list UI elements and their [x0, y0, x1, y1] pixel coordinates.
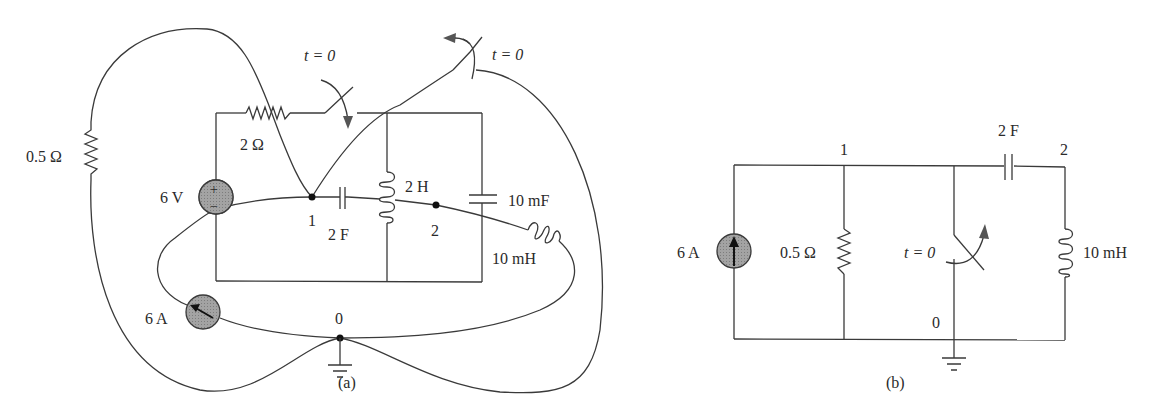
- current-source-6a-b: 6 A: [677, 234, 751, 268]
- inductor-2h: 2 H: [380, 172, 430, 223]
- label-10mf: 10 mF: [508, 192, 549, 209]
- capacitor-2f: 2 F: [328, 187, 349, 243]
- node-1-dot: [309, 194, 316, 201]
- minus-sign: −: [210, 199, 218, 214]
- voltage-source-6v: + − 6 V: [160, 180, 233, 214]
- wire-ellipse-right: [340, 241, 575, 338]
- wire-right-arc: [340, 70, 602, 393]
- label-10mh: 10 mH: [492, 250, 536, 267]
- plus-sign: +: [210, 182, 218, 197]
- current-source-6a: 6 A: [145, 295, 220, 329]
- label-6a: 6 A: [145, 310, 168, 327]
- switch-left: t = 0: [304, 47, 353, 129]
- switch-b: t = 0: [904, 224, 989, 270]
- circuit-figure: 2 Ω t = 0 t = 0 0.5 Ω: [0, 0, 1165, 410]
- label-node-2-b: 2: [1060, 141, 1068, 158]
- inductor-10mh-b: 10 mH: [1059, 229, 1127, 277]
- label-10mh-b: 10 mH: [1083, 244, 1127, 261]
- wire-ellipse-top: [216, 197, 336, 209]
- circuit-b: 6 A 0.5 Ω 1 t = 0 0 2 F 2 10 mH (b): [677, 122, 1127, 392]
- capacitor-2f-b: 2 F: [998, 122, 1019, 180]
- label-2f: 2 F: [328, 226, 349, 243]
- label-6v: 6 V: [160, 189, 184, 206]
- label-2f-b: 2 F: [998, 122, 1019, 139]
- label-node-1-b: 1: [840, 141, 848, 158]
- caption-b: (b): [886, 374, 905, 392]
- circuit-a: 2 Ω t = 0 t = 0 0.5 Ω: [26, 29, 602, 393]
- resistor-0.5ohm-b: [838, 229, 850, 274]
- switch-right: t = 0: [443, 33, 523, 79]
- label-2h: 2 H: [405, 178, 429, 195]
- capacitor-10mf: 10 mF: [469, 192, 549, 209]
- label-node-1: 1: [308, 212, 316, 229]
- label-node-0-b: 0: [932, 314, 940, 331]
- label-2ohm: 2 Ω: [240, 136, 264, 153]
- caption-a: (a): [338, 374, 356, 392]
- node-2-dot: [433, 202, 440, 209]
- label-switch-left: t = 0: [304, 47, 335, 64]
- resistor-2ohm: [246, 107, 290, 119]
- wire-node1-to-right-switch: [312, 70, 453, 197]
- resistor-0.5ohm: [85, 122, 97, 180]
- ground-icon: [328, 338, 352, 377]
- label-node-0: 0: [335, 310, 343, 327]
- label-0.5ohm: 0.5 Ω: [26, 148, 62, 165]
- label-switch-b: t = 0: [904, 244, 935, 261]
- ground-icon-b: [942, 340, 966, 370]
- label-node-2: 2: [431, 222, 439, 239]
- label-0.5ohm-b: 0.5 Ω: [780, 244, 816, 261]
- label-switch-right: t = 0: [492, 46, 523, 63]
- label-6a-b: 6 A: [677, 244, 700, 261]
